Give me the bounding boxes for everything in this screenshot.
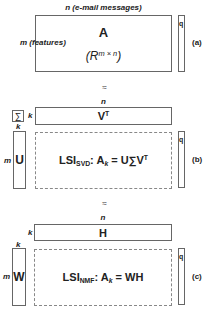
matrix-vt-label: VT — [36, 111, 171, 122]
panel-tag-b: (b) — [192, 156, 202, 164]
svd-formula: LSISVD: Ak = U∑VT — [36, 155, 171, 168]
matrix-w-label: W — [13, 271, 25, 283]
approx-matrix-nmf-box: LSINMF: Ak = WH — [34, 249, 172, 306]
matrix-u-box: U — [13, 131, 26, 189]
q-label-b: q — [179, 136, 183, 143]
n-email-messages-label: n (e-mail messages) — [35, 4, 172, 12]
m-label-b: m — [4, 157, 11, 165]
panel-tag-c: (c) — [192, 273, 202, 281]
approx-matrix-svd-box: LSISVD: Ak = U∑VT — [35, 132, 172, 189]
formula-rhs-c: = WH — [113, 271, 144, 283]
formula-rhs: = U∑V — [108, 154, 144, 166]
n-label-b: n — [35, 98, 172, 106]
query-vector-b: q — [178, 131, 185, 188]
sigma-label: ∑ — [13, 112, 23, 121]
m-features-label: m (features) — [20, 39, 66, 47]
q-label-c: q — [179, 253, 183, 260]
vt-base: V — [98, 110, 105, 122]
formula-rhs-sup: T — [144, 154, 148, 161]
svd-sub: SVD — [76, 160, 90, 167]
q-label-a: q — [179, 20, 183, 27]
formula-a: : A — [90, 154, 104, 166]
n-label-c: n — [34, 214, 172, 222]
matrix-a-space: (Rm × n) — [36, 50, 171, 62]
query-vector-c: q — [178, 248, 185, 305]
matrix-h-label: H — [35, 228, 171, 239]
panel-tag-a: (a) — [192, 39, 202, 47]
k-label-h: k — [28, 229, 32, 237]
lsi-text-c: LSI — [63, 271, 80, 283]
matrix-w-box: W — [12, 248, 26, 306]
k-label-sigma: k — [28, 112, 32, 120]
k-label-u: k — [16, 123, 20, 131]
nmf-formula: LSINMF: Ak = WH — [35, 272, 171, 285]
approx-symbol-2: ≈ — [0, 200, 209, 208]
formula-a-c: : A — [94, 271, 108, 283]
sigma-box: ∑ — [12, 110, 24, 122]
nmf-sub: NMF — [80, 277, 95, 284]
m-label-c: m — [3, 273, 10, 281]
space-sup: m × n — [98, 49, 117, 58]
query-vector-a: q — [178, 15, 185, 72]
matrix-h-box: H — [34, 224, 172, 241]
approx-symbol-1: ≈ — [0, 84, 209, 92]
lsi-text: LSI — [59, 154, 76, 166]
matrix-vt-box: VT — [35, 107, 172, 125]
vt-sup: T — [105, 110, 109, 117]
matrix-u-label: U — [14, 154, 25, 166]
